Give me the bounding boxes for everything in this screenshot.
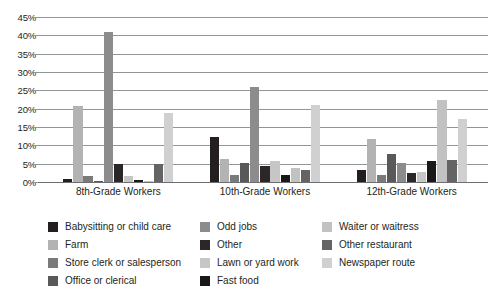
page-edge-artifact — [0, 300, 488, 304]
bar — [250, 87, 259, 182]
legend-item: Office or clerical — [48, 272, 200, 290]
bar — [154, 164, 163, 182]
y-tick-mark — [33, 182, 38, 183]
bar — [63, 179, 72, 182]
legend-swatch-icon — [200, 258, 210, 268]
bar — [311, 105, 320, 182]
legend-item: Babysitting or child care — [48, 218, 200, 236]
bar — [260, 166, 269, 183]
bar-groups-layer: 8th-Grade Workers10th-Grade Workers12th-… — [0, 0, 488, 182]
bar — [134, 180, 143, 182]
legend-item: Other restaurant — [322, 236, 480, 254]
bar — [301, 170, 310, 182]
legend-label: Other — [217, 239, 242, 251]
bar — [210, 137, 219, 182]
legend-item: Newspaper route — [322, 254, 480, 272]
legend-label: Fast food — [217, 275, 259, 287]
legend-item: Lawn or yard work — [200, 254, 322, 272]
legend-swatch-icon — [322, 240, 332, 250]
bar — [164, 113, 173, 182]
legend-label: Lawn or yard work — [217, 257, 299, 269]
bar — [437, 100, 446, 182]
legend-label: Newspaper route — [339, 257, 415, 269]
bar — [387, 154, 396, 182]
bar — [144, 181, 153, 182]
legend-swatch-icon — [200, 222, 210, 232]
legend-label: Office or clerical — [65, 275, 137, 287]
bar — [291, 168, 300, 182]
legend-label: Odd jobs — [217, 221, 257, 233]
bar — [230, 175, 239, 182]
plot-area: 0%5%10%15%20%25%30%35%40%45% 8th-Grade W… — [0, 0, 488, 200]
bar — [447, 160, 456, 182]
legend-swatch-icon — [48, 222, 58, 232]
x-axis-group-label: 12th-Grade Workers — [366, 186, 456, 197]
legend-label: Farm — [65, 239, 88, 251]
bar — [281, 175, 290, 182]
bar — [124, 176, 133, 182]
bar — [407, 173, 416, 182]
legend-swatch-icon — [48, 240, 58, 250]
gridline-0 — [38, 182, 488, 183]
legend-label: Babysitting or child care — [65, 221, 171, 233]
bar — [270, 161, 279, 182]
legend-item: Store clerk or salesperson — [48, 254, 200, 272]
bar — [357, 170, 366, 182]
legend-label: Other restaurant — [339, 239, 412, 251]
bar — [458, 119, 467, 182]
bar — [104, 32, 113, 182]
legend-item: Waiter or waitress — [322, 218, 480, 236]
legend-swatch-icon — [200, 240, 210, 250]
legend-swatch-icon — [200, 276, 210, 286]
legend-swatch-icon — [48, 276, 58, 286]
bar — [83, 176, 92, 182]
legend-item: Fast food — [200, 272, 322, 290]
bar — [397, 163, 406, 182]
bar — [73, 106, 82, 182]
chart-legend: Babysitting or child careFarmStore clerk… — [48, 218, 480, 298]
x-axis-group-label: 10th-Grade Workers — [220, 186, 310, 197]
x-axis-group-label: 8th-Grade Workers — [76, 186, 161, 197]
legend-item: Odd jobs — [200, 218, 322, 236]
bar-group: 12th-Grade Workers — [357, 0, 467, 182]
bar-group: 8th-Grade Workers — [63, 0, 173, 182]
legend-label: Waiter or waitress — [339, 221, 419, 233]
legend-item: Other — [200, 236, 322, 254]
bar — [367, 139, 376, 182]
bar — [417, 172, 426, 182]
legend-item: Farm — [48, 236, 200, 254]
bar — [220, 159, 229, 182]
bar — [377, 175, 386, 182]
bar — [94, 181, 103, 182]
legend-swatch-icon — [48, 258, 58, 268]
legend-label: Store clerk or salesperson — [65, 257, 181, 269]
legend-swatch-icon — [322, 222, 332, 232]
bar — [114, 164, 123, 182]
grouped-bar-chart: 0%5%10%15%20%25%30%35%40%45% 8th-Grade W… — [0, 0, 488, 304]
legend-swatch-icon — [322, 258, 332, 268]
bar-group: 10th-Grade Workers — [210, 0, 320, 182]
bar — [240, 163, 249, 182]
bar — [427, 161, 436, 182]
